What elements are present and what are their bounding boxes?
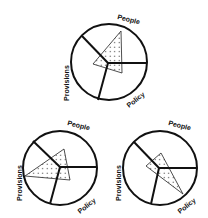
label-provisions: Provisions: [16, 165, 23, 201]
label-people: People: [67, 119, 91, 132]
panel-top: People Provisions Policy: [63, 13, 147, 109]
label-people: People: [117, 13, 141, 26]
diagram-canvas: People Provisions Policy People Provisio…: [0, 0, 208, 218]
panel-bottom-left: People Provisions Policy: [16, 119, 98, 215]
spoke-bottom: [151, 168, 159, 204]
spoke-upper-left: [82, 36, 108, 63]
panel-bottom-right: People Provisions Policy: [115, 119, 198, 215]
label-provisions: Provisions: [63, 65, 70, 101]
label-provisions: Provisions: [115, 165, 122, 201]
label-policy: Policy: [125, 91, 146, 110]
spoke-upper-left: [134, 142, 159, 168]
spoke-bottom: [98, 63, 108, 100]
label-people: People: [168, 119, 192, 132]
